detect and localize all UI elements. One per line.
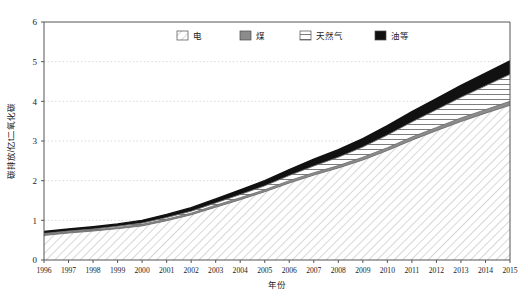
y-tick-label: 5 [33, 57, 38, 67]
y-tick-label: 1 [33, 216, 38, 226]
x-tick-label: 1997 [61, 266, 76, 275]
x-tick-label: 2004 [233, 266, 248, 275]
chart-canvas: 0123456 19961997199819992000200120022003… [0, 0, 528, 296]
x-tick-label: 2013 [453, 266, 468, 275]
carbon-emission-stacked-area-chart: 0123456 19961997199819992000200120022003… [0, 0, 528, 296]
legend-label-2: 天然气 [316, 31, 343, 41]
x-tick-label: 2005 [257, 266, 272, 275]
x-tick-label: 1998 [85, 266, 100, 275]
y-tick-label: 3 [33, 136, 38, 146]
x-tick-label: 2011 [404, 266, 419, 275]
x-tick-label: 2008 [331, 266, 346, 275]
x-tick-label: 2014 [478, 266, 493, 275]
y-tick-label: 4 [33, 97, 38, 107]
x-tick-label: 2009 [355, 266, 370, 275]
y-tick-label: 0 [33, 255, 38, 265]
x-tick-label: 1996 [36, 266, 51, 275]
x-tick-label: 2002 [184, 266, 199, 275]
legend-swatch-2 [300, 31, 311, 40]
y-axis-title: 碳排放/亿t二氧化碳 [6, 103, 16, 180]
x-tick-label: 1999 [110, 266, 125, 275]
legend-swatch-3 [375, 31, 386, 40]
x-axis-title: 年份 [268, 280, 286, 290]
x-tick-label: 2007 [306, 266, 321, 275]
x-tick-label: 2000 [135, 266, 150, 275]
legend-label-0: 电 [193, 31, 202, 41]
legend-label-3: 油等 [391, 31, 409, 41]
x-tick-label: 2010 [380, 266, 395, 275]
legend-swatch-1 [240, 31, 251, 40]
x-tick-label: 2006 [282, 266, 297, 275]
legend-swatch-0 [177, 31, 188, 40]
y-tick-label: 6 [33, 17, 38, 27]
x-tick-label: 2015 [502, 266, 517, 275]
y-tick-label: 2 [33, 176, 38, 186]
x-tick-label: 2001 [159, 266, 174, 275]
x-tick-label: 2003 [208, 266, 223, 275]
legend-label-1: 煤 [256, 31, 265, 41]
x-tick-label: 2012 [429, 266, 444, 275]
